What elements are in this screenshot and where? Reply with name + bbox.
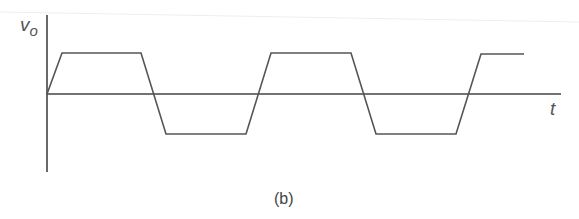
- y-axis-label: vo: [20, 14, 38, 39]
- scan-artifact-line: [0, 12, 579, 22]
- x-axis-label: t: [550, 98, 555, 120]
- figure-caption: (b): [274, 190, 294, 208]
- y-axis-label-subscript: o: [30, 22, 38, 39]
- waveform-diagram: [0, 0, 579, 219]
- y-axis-label-main: v: [20, 14, 30, 35]
